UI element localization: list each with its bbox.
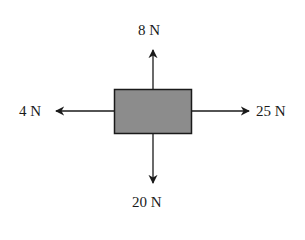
- force-label-down: 20 N: [132, 195, 162, 210]
- force-label-up: 8 N: [138, 23, 160, 38]
- object-box: [115, 90, 192, 134]
- force-label-left: 4 N: [19, 104, 41, 119]
- force-label-right: 25 N: [256, 104, 286, 119]
